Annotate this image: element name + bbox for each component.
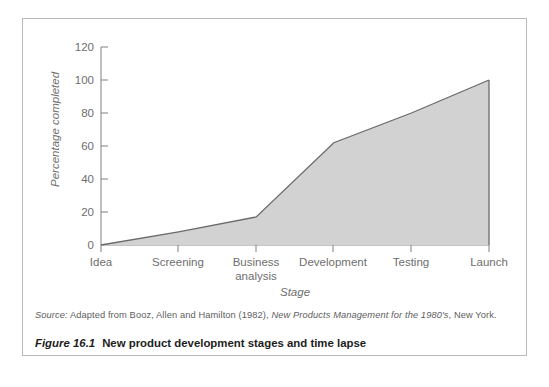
chart-plot-area: Percentage completed 120 100 80 60 40 20… bbox=[23, 19, 526, 299]
source-publication-title: New Products Management for the 1980's bbox=[271, 310, 448, 320]
x-label-launch: Launch bbox=[470, 256, 508, 268]
source-note: Source: Adapted from Booz, Allen and Ham… bbox=[35, 310, 520, 320]
x-label-idea: Idea bbox=[90, 256, 113, 268]
source-body-last: , New York. bbox=[449, 310, 497, 320]
y-tick-label-80: 80 bbox=[81, 107, 94, 119]
figure-caption-text: New product development stages and time … bbox=[102, 337, 366, 349]
x-label-business-analysis: Businessanalysis bbox=[233, 256, 280, 282]
y-tick-label-100: 100 bbox=[75, 74, 94, 86]
figure-container: Percentage completed 120 100 80 60 40 20… bbox=[22, 18, 527, 356]
figure-caption: Figure 16.1New product development stage… bbox=[35, 337, 520, 349]
x-label-screening: Screening bbox=[152, 256, 204, 268]
x-axis-title: Stage bbox=[280, 286, 310, 298]
figure-number: Figure 16.1 bbox=[35, 337, 95, 349]
source-label: Source: bbox=[35, 310, 68, 320]
x-label-testing: Testing bbox=[393, 256, 429, 268]
area-chart: Percentage completed 120 100 80 60 40 20… bbox=[23, 19, 526, 299]
y-axis-title: Percentage completed bbox=[49, 71, 61, 187]
x-label-development: Development bbox=[299, 256, 368, 268]
y-tick-label-20: 20 bbox=[81, 206, 94, 218]
y-tick-label-0: 0 bbox=[88, 239, 94, 251]
y-tick-label-40: 40 bbox=[81, 173, 94, 185]
y-tick-label-60: 60 bbox=[81, 140, 94, 152]
source-body-first: Adapted from Booz, Allen and Hamilton (1… bbox=[68, 310, 272, 320]
y-tick-label-120: 120 bbox=[75, 41, 94, 53]
